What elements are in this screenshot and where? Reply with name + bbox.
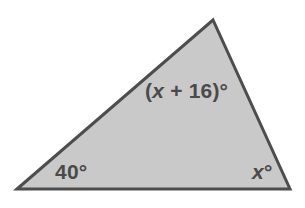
triangle-figure: (x + 16)° 40° x° [0,0,305,208]
angle-label-right: x° [252,161,273,182]
variable-x: x [152,79,164,102]
angle-label-right-text: x° [252,160,273,183]
angle-label-left: 40° [55,161,87,182]
angle-label-top-text: (x + 16)° [145,79,228,102]
angle-label-top: (x + 16)° [145,80,228,101]
variable-x: x [252,160,264,183]
angle-label-left-text: 40° [55,160,87,183]
